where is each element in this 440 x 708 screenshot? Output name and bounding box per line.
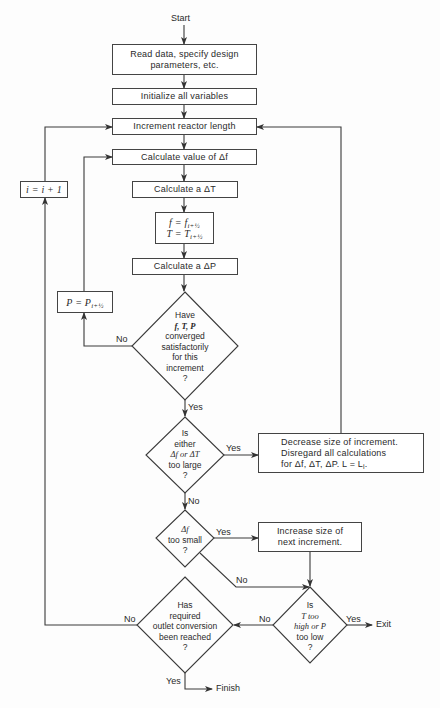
- read-data-line2: parameters, etc.: [150, 60, 218, 70]
- initialize-box: Initialize all variables: [112, 88, 257, 105]
- decrease-line1: Decrease size of increment.: [281, 437, 398, 447]
- decision-too-large: Is either Δf or ΔT too large ?: [168, 428, 201, 481]
- dec-line: required: [169, 611, 200, 621]
- calc-dP-box: Calculate a ΔP: [132, 258, 238, 275]
- increase-box: Increase size ofnext increment.: [258, 522, 362, 552]
- assign-T: T = T: [166, 228, 190, 239]
- dec-line: Δf or ΔT: [171, 449, 200, 459]
- dec-line: been reached: [159, 632, 211, 642]
- label-no-too-small: No: [236, 575, 248, 586]
- dec-line: for this: [172, 352, 198, 362]
- dec-line: ?: [308, 642, 313, 652]
- finish-terminal: Finish: [216, 683, 240, 694]
- read-data-line1: Read data, specify design: [130, 49, 239, 59]
- assign-P-box: P = Pi+½: [57, 291, 113, 313]
- label-yes-conversion: Yes: [166, 676, 181, 687]
- decrease-period: .: [365, 459, 368, 469]
- connector-lines: [0, 0, 440, 708]
- dec-line: too small: [168, 535, 202, 545]
- assign-f: f = f: [169, 217, 187, 228]
- dec-line: Is: [182, 428, 189, 438]
- assign-P-sub: i+½: [91, 302, 104, 310]
- label-yes-T-P: Yes: [346, 614, 361, 625]
- decrease-box: Decrease size of increment.Disregard all…: [258, 433, 424, 473]
- dec-line: outlet conversion: [153, 621, 217, 631]
- assign-P: P = P: [66, 297, 91, 308]
- dec-line: ?: [183, 642, 188, 652]
- dec-line: Δf: [181, 524, 188, 534]
- decrease-line3: for Δf, ΔT, ΔP. L = L: [281, 459, 363, 469]
- label-no-too-large: No: [188, 496, 200, 507]
- calc-df-box: Calculate value of Δf: [112, 149, 257, 165]
- decision-too-small: Δf too small ?: [168, 524, 202, 556]
- dec-line: high or P: [294, 621, 326, 631]
- exit-terminal: Exit: [376, 619, 391, 630]
- label-no-converged: No: [116, 334, 128, 345]
- label-yes-too-large: Yes: [226, 443, 241, 454]
- decision-T-P-limits: Is T too high or P too low ?: [294, 600, 326, 653]
- dec-line: either: [174, 439, 195, 449]
- decision-converged: Have f, T, P converged satisfactorily fo…: [162, 310, 209, 384]
- dec-line: ?: [183, 545, 188, 555]
- calc-dT-box: Calculate a ΔT: [132, 181, 238, 198]
- read-data-box: Read data, specify designparameters, etc…: [112, 44, 257, 75]
- dec-line: Is: [307, 600, 314, 610]
- decrease-line2: Disregard all calculations: [281, 448, 386, 458]
- dec-line: too large: [168, 460, 201, 470]
- dec-line: T too: [301, 611, 319, 621]
- flowchart: Start Read data, specify designparameter…: [0, 0, 440, 708]
- dec-line: Have: [175, 310, 195, 320]
- increment-length-box: Increment reactor length: [112, 118, 257, 135]
- dec-line: satisfactorily: [162, 342, 209, 352]
- assign-fT-box: f = fi+½T = Ti+½: [155, 212, 214, 244]
- dec-line: f, T, P: [175, 321, 196, 331]
- label-no-conversion: No: [124, 614, 136, 625]
- dec-line: Has: [177, 600, 192, 610]
- dec-line: too low: [297, 632, 324, 642]
- label-yes-too-small: Yes: [216, 527, 231, 538]
- dec-line: converged: [165, 331, 205, 341]
- assign-T-sub: i+½: [190, 233, 203, 241]
- increase-line1: Increase size of: [277, 526, 343, 536]
- increase-line2: next increment.: [278, 537, 343, 547]
- start-terminal: Start: [171, 13, 190, 24]
- increment-i-box: i = i + 1: [20, 181, 68, 198]
- label-no-T-P: No: [259, 614, 271, 625]
- dec-line: ?: [183, 470, 188, 480]
- dec-line: increment: [166, 363, 203, 373]
- dec-line: ?: [183, 373, 188, 383]
- label-yes-converged: Yes: [188, 402, 203, 413]
- decision-conversion: Has required outlet conversion been reac…: [153, 600, 217, 653]
